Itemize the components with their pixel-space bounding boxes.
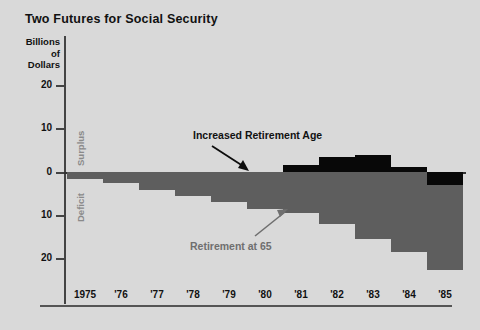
chart-canvas: Two Futures for Social Security Billions…: [0, 0, 480, 330]
annotation-arrow-gray: [0, 0, 480, 330]
